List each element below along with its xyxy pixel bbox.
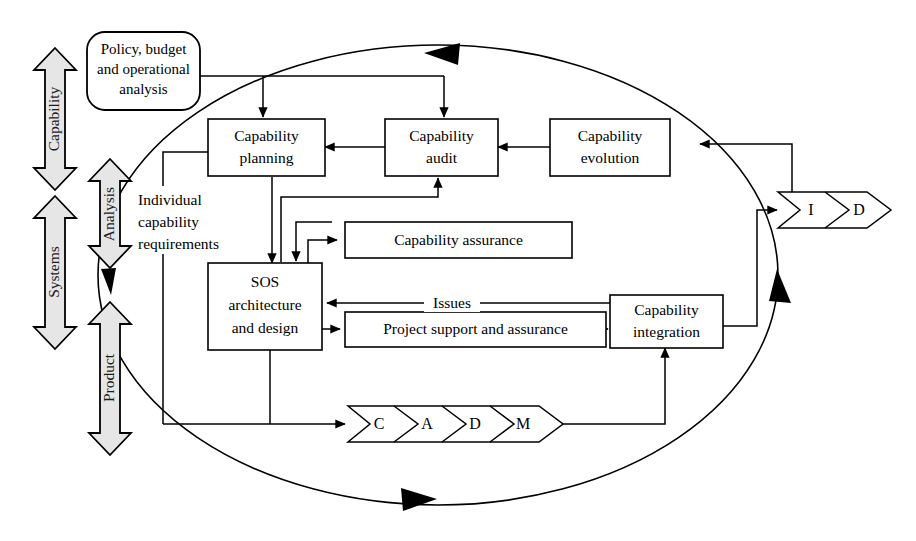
icr-label-line2: capability — [138, 213, 199, 230]
node-sos-architecture-and-design[interactable]: SOS architecture and design — [208, 263, 322, 350]
policy-label-line3: analysis — [119, 81, 167, 97]
capability-planning-label-line1: Capability — [234, 127, 299, 144]
capability-planning-label-line2: planning — [239, 149, 293, 166]
node-capability-planning[interactable]: Capability planning — [208, 119, 325, 176]
cadm-segment-d: D — [469, 415, 481, 432]
capability-assurance-label: Capability assurance — [394, 231, 523, 248]
capability-audit-label-line1: Capability — [409, 127, 474, 144]
conn-id-to-evolution — [700, 144, 792, 192]
axis-analysis: Analysis — [89, 159, 131, 268]
cycle-arrow-left — [101, 268, 116, 295]
sos-label-line1: SOS — [251, 273, 279, 290]
chevron-bar-cadm[interactable]: C A D M — [348, 406, 563, 442]
policy-label-line2: and operational — [97, 61, 190, 77]
node-capability-assurance[interactable]: Capability assurance — [345, 222, 572, 258]
capability-audit-label-line2: audit — [426, 149, 458, 166]
capability-evolution-label-line2: evolution — [581, 149, 640, 166]
node-project-support-and-assurance[interactable]: Project support and assurance — [345, 312, 606, 347]
node-capability-integration[interactable]: Capability integration — [610, 295, 723, 348]
conn-assurance-to-sos — [296, 222, 332, 261]
axis-systems: Systems — [34, 196, 76, 349]
conn-sos-to-assurance — [308, 240, 337, 263]
capability-integration-label-line2: integration — [633, 323, 700, 340]
axis-product-label: Product — [100, 353, 117, 402]
icr-label-line3: requirements — [138, 235, 219, 252]
id-segment-i: I — [808, 201, 813, 218]
sos-label-line3: and design — [232, 319, 299, 336]
cycle-arrow-top — [424, 43, 460, 65]
capability-integration-label-line1: Capability — [634, 301, 699, 318]
policy-label-line1: Policy, budget — [101, 41, 188, 57]
cycle-arrow-bottom — [401, 488, 437, 511]
node-capability-evolution[interactable]: Capability evolution — [550, 119, 670, 176]
node-policy-budget-analysis[interactable]: Policy, budget and operational analysis — [87, 32, 200, 110]
icr-label-line1: Individual — [138, 191, 202, 208]
issues-label: Issues — [433, 294, 471, 311]
label-individual-capability-requirements: Individual capability requirements — [136, 186, 258, 254]
axis-capability: Capability — [34, 48, 76, 190]
cycle-arrow-right — [769, 269, 791, 303]
cadm-segment-a: A — [421, 415, 433, 432]
cadm-segment-m: M — [516, 415, 530, 432]
diagram-canvas: Capability Systems Analysis Product — [0, 0, 916, 541]
axis-analysis-label: Analysis — [100, 187, 117, 241]
project-support-label: Project support and assurance — [383, 320, 568, 337]
cadm-segment-c: C — [374, 415, 385, 432]
axis-capability-label: Capability — [45, 86, 62, 151]
id-segment-d: D — [853, 201, 865, 218]
capability-evolution-label-line1: Capability — [578, 127, 643, 144]
conn-cadm-to-integration — [563, 348, 665, 424]
axis-product: Product — [89, 302, 131, 455]
edge-label-issues: Issues — [424, 292, 480, 312]
sos-label-line2: architecture — [228, 296, 301, 313]
node-capability-audit[interactable]: Capability audit — [385, 119, 498, 176]
axis-systems-label: Systems — [45, 246, 62, 298]
capability-engineering-diagram: Capability Systems Analysis Product — [0, 0, 916, 541]
conn-integration-to-id — [723, 210, 777, 326]
chevron-bar-id[interactable]: I D — [778, 192, 891, 228]
